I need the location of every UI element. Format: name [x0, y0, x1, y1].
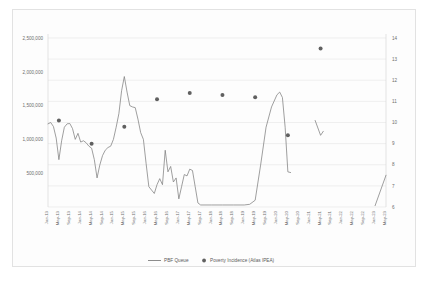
x-axis-tick: May-19	[251, 210, 256, 225]
legend-label: Poverty Incidence (Atlas IPEA)	[210, 258, 275, 263]
x-axis-tick: Sep-16	[164, 210, 169, 224]
right-axis-tick: 14	[392, 36, 398, 41]
x-axis-tick: May-22	[349, 210, 354, 225]
poverty-incidence-point	[155, 97, 159, 101]
x-axis-tick: Sep-15	[131, 210, 136, 224]
right-axis-tick: 12	[392, 78, 398, 83]
x-axis-tick: May-14	[88, 210, 93, 225]
x-axis-tick: Sep-22	[360, 210, 365, 224]
series-poverty-incidence-dots	[57, 47, 323, 146]
x-axis-tick: Jan-19	[240, 210, 245, 224]
x-axis-tick: Jan-14	[77, 210, 82, 224]
gridlines-group	[48, 34, 386, 207]
poverty-incidence-point	[57, 118, 61, 122]
poverty-incidence-point	[220, 93, 224, 97]
x-axis-tick: Jan-16	[142, 210, 147, 224]
poverty-incidence-point	[90, 142, 94, 146]
x-axis-tick: Sep-18	[229, 210, 234, 224]
x-axis-tick: Sep-13	[66, 210, 71, 224]
right-axis-tick: 11	[392, 99, 397, 104]
right-axis-tick: 6	[392, 205, 395, 210]
poverty-incidence-point	[286, 133, 290, 137]
left-axis-tick: 500,000	[26, 171, 43, 176]
chart-canvas: 500,0001,000,0001,500,0002,000,0002,500,…	[0, 0, 430, 285]
x-axis-tick: Jan-22	[338, 210, 343, 224]
x-axis-tick: May-20	[284, 210, 289, 225]
poverty-incidence-point	[122, 125, 126, 129]
poverty-incidence-point	[319, 47, 323, 51]
poverty-incidence-point	[188, 91, 192, 95]
right-axis-tick: 10	[392, 120, 398, 125]
x-axis-tick: Jan-13	[44, 210, 49, 224]
x-axis-tick: Jan-21	[306, 210, 311, 224]
x-axis-tick: Sep-21	[327, 210, 332, 224]
x-axis-tick: Jan-15	[109, 210, 114, 224]
x-axis-tick: May-21	[317, 210, 322, 225]
x-axis-labels: Jan-13May-13Sep-13Jan-14May-14Sep-14Jan-…	[44, 210, 387, 225]
left-axis-tick: 2,500,000	[23, 36, 44, 41]
x-axis-tick: May-23	[382, 210, 387, 225]
x-axis-tick: Jan-17	[175, 210, 180, 224]
x-axis-tick: May-17	[186, 210, 191, 225]
x-axis-tick: May-13	[55, 210, 60, 225]
left-axis-labels: 500,0001,000,0001,500,0002,000,0002,500,…	[23, 36, 44, 176]
left-axis-tick: 2,000,000	[23, 70, 44, 75]
left-axis-tick: 1,500,000	[23, 103, 44, 108]
x-axis-tick: Sep-19	[262, 210, 267, 224]
x-axis-tick: Sep-14	[99, 210, 104, 224]
x-axis-tick: Sep-20	[295, 210, 300, 224]
x-axis-tick: May-16	[153, 210, 158, 225]
legend-label: PBF Queue	[164, 258, 189, 263]
x-axis-tick: May-18	[218, 210, 223, 225]
left-axis-tick: 1,000,000	[23, 137, 44, 142]
x-axis-tick: Jan-23	[371, 210, 376, 224]
x-axis-tick: Jan-20	[273, 210, 278, 224]
x-axis-tick: May-15	[120, 210, 125, 225]
x-axis-tick: Jan-18	[208, 210, 213, 224]
right-axis-tick: 8	[392, 162, 395, 167]
right-axis-tick: 7	[392, 184, 395, 189]
right-axis-labels: 67891011121314	[392, 36, 398, 210]
legend-dot-marker	[202, 259, 206, 263]
pbf-queue-line-path	[375, 175, 386, 205]
chart-legend: PBF QueuePoverty Incidence (Atlas IPEA)	[148, 258, 275, 263]
poverty-incidence-point	[253, 95, 257, 99]
x-axis-tick: Sep-17	[197, 210, 202, 224]
right-axis-tick: 13	[392, 57, 398, 62]
right-axis-tick: 9	[392, 141, 395, 146]
series-pbf-queue-line	[48, 77, 386, 206]
